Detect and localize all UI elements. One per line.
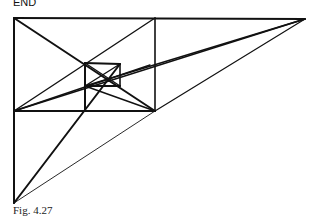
geometric-diagram: [0, 0, 313, 223]
bottom-apex-inner: [14, 64, 120, 203]
inner-top-edge: [85, 63, 120, 64]
apex-line-br: [155, 19, 305, 111]
outer-top-edge: [14, 18, 305, 19]
bottom-apex-br: [14, 111, 155, 203]
figure-caption: Fig. 4.27: [13, 204, 52, 216]
inner-to-br: [85, 86, 155, 111]
apex-line-inner2: [14, 65, 150, 111]
